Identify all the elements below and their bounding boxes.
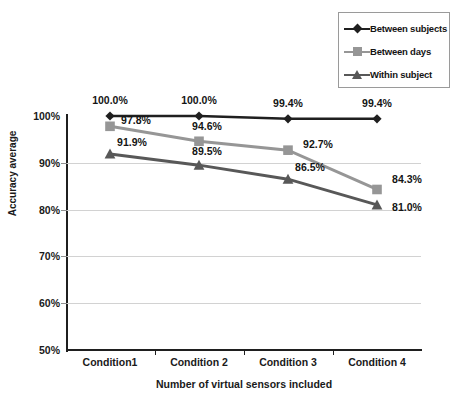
y-tick-label-80: 80% <box>14 204 60 216</box>
data-point-label: 94.6% <box>192 120 222 132</box>
line-chart: Between subjects Between days Within sub… <box>0 0 458 404</box>
data-point-label: 91.9% <box>117 136 147 148</box>
data-point-label: 81.0% <box>392 201 422 213</box>
plot-area <box>67 116 421 350</box>
y-tick-mark-70 <box>61 256 67 257</box>
y-tick-label-100: 100% <box>14 110 60 122</box>
data-point-label: 99.4% <box>362 97 392 109</box>
legend-label-between-days: Between days <box>370 46 431 57</box>
gridline-70 <box>67 256 421 257</box>
legend-marker-square-icon <box>344 45 370 59</box>
x-tick-label-condition-3: Condition 3 <box>259 356 317 368</box>
y-tick-label-90: 90% <box>14 157 60 169</box>
data-point-label: 97.8% <box>121 114 151 126</box>
legend-marker-diamond-icon <box>344 22 370 36</box>
x-tick-mark-1 <box>155 349 156 355</box>
legend-item-between-subjects[interactable]: Between subjects <box>341 17 449 40</box>
x-tick-label-condition-4: Condition 4 <box>348 356 406 368</box>
x-axis-title: Number of virtual sensors included <box>67 378 421 390</box>
legend-item-between-days[interactable]: Between days <box>341 40 449 63</box>
data-point-label: 92.7% <box>303 138 333 150</box>
gridline-60 <box>67 303 421 304</box>
y-tick-label-70: 70% <box>14 250 60 262</box>
legend-label-within-subject: Within subject <box>370 69 432 80</box>
y-tick-label-60: 60% <box>14 297 60 309</box>
gridline-90 <box>67 163 421 164</box>
data-point-label: 86.5% <box>295 161 325 173</box>
y-tick-mark-90 <box>61 163 67 164</box>
data-point-label: 89.5% <box>192 145 222 157</box>
legend-label-between-subjects: Between subjects <box>370 23 447 34</box>
y-tick-mark-60 <box>61 303 67 304</box>
y-axis-title: Accuracy average <box>7 104 18 244</box>
legend-marker-triangle-icon <box>344 68 370 82</box>
data-point-label: 84.3% <box>392 173 422 185</box>
legend-item-within-subject[interactable]: Within subject <box>341 63 449 86</box>
data-point-label: 100.0% <box>92 94 128 106</box>
data-point-label: 99.4% <box>273 97 303 109</box>
data-point-label: 100.0% <box>181 94 217 106</box>
x-tick-mark-3 <box>333 349 334 355</box>
x-tick-mark-2 <box>244 349 245 355</box>
chart-legend: Between subjects Between days Within sub… <box>338 12 450 88</box>
x-tick-label-condition-2: Condition 2 <box>170 356 228 368</box>
gridline-80 <box>67 210 421 211</box>
y-tick-mark-80 <box>61 210 67 211</box>
y-tick-label-50: 50% <box>14 344 60 356</box>
x-tick-label-condition-1: Condition1 <box>83 356 138 368</box>
